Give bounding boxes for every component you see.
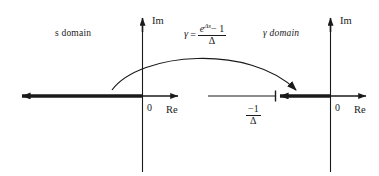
gamma-plane-im-label: Im bbox=[340, 16, 352, 27]
equation-denominator: Δ bbox=[198, 36, 226, 47]
complex-plane-mapping-figure: s domain Im 0 Re γ domain Im 0 Re −1 Δ γ… bbox=[0, 0, 379, 176]
mapping-curved-arrow bbox=[112, 58, 296, 90]
s-plane-im-label: Im bbox=[152, 16, 164, 27]
pole-denominator: Δ bbox=[246, 116, 261, 127]
s-domain-label: s domain bbox=[55, 29, 91, 39]
equation-lhs: γ bbox=[184, 29, 188, 40]
s-plane-re-label: Re bbox=[166, 105, 178, 116]
equation-equals-sign: = bbox=[190, 30, 196, 40]
equation-fraction: eΔs− 1 Δ bbox=[198, 23, 226, 46]
mapping-equation: γ = eΔs− 1 Δ bbox=[184, 23, 226, 46]
equation-numerator: eΔs− 1 bbox=[198, 23, 226, 36]
gamma-plane-re-label: Re bbox=[354, 105, 366, 116]
s-plane-origin-label: 0 bbox=[147, 103, 152, 113]
gamma-domain-label: γ domain bbox=[263, 29, 299, 39]
gamma-plane-origin-label: 0 bbox=[335, 103, 340, 113]
pole-fraction: −1 Δ bbox=[246, 104, 261, 126]
gamma-plane-pole-label: −1 Δ bbox=[246, 104, 261, 126]
equation-numerator-tail: − 1 bbox=[211, 23, 224, 34]
pole-numerator: −1 bbox=[246, 104, 261, 116]
